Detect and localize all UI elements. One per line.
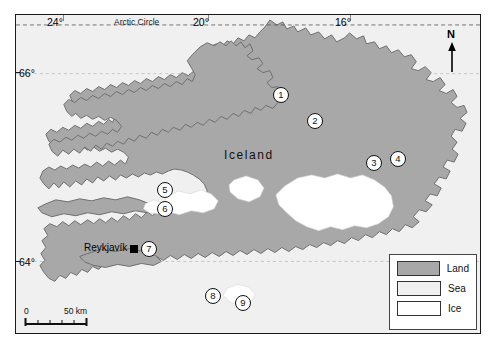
latitude-tick-66 [15, 72, 20, 73]
longitude-label-20: 20° [193, 16, 209, 28]
site-marker-8[interactable]: 8 [205, 288, 221, 304]
city-marker-icon [130, 245, 138, 253]
legend-label-ice: Ice [448, 303, 461, 314]
iceland-map: 24° 20° 16° Arctic Circle 66° 64° Icelan… [0, 0, 495, 350]
city-label-reykjavik: Reykjavík [84, 242, 127, 253]
map-legend: Land Sea Ice [389, 254, 477, 330]
site-marker-7[interactable]: 7 [141, 241, 157, 257]
legend-label-sea: Sea [448, 283, 466, 294]
latitude-label-66: 66° [19, 67, 35, 79]
legend-row-sea: Sea [397, 281, 469, 296]
scalebar-icon [24, 317, 90, 328]
site-marker-9[interactable]: 9 [235, 295, 251, 311]
arctic-circle-label: Arctic Circle [114, 17, 159, 27]
legend-swatch-land [397, 261, 440, 276]
site-marker-4[interactable]: 4 [390, 151, 406, 167]
site-marker-6[interactable]: 6 [157, 201, 173, 217]
site-marker-2[interactable]: 2 [307, 113, 323, 129]
legend-row-ice: Ice [397, 301, 469, 316]
longitude-label-16: 16° [335, 16, 351, 28]
site-marker-3[interactable]: 3 [366, 155, 382, 171]
north-arrow-icon [445, 42, 459, 72]
scalebar-start-label: 0 [24, 306, 29, 316]
north-letter-label: N [447, 28, 455, 40]
latitude-tick-64 [15, 261, 20, 262]
site-marker-1[interactable]: 1 [273, 87, 289, 103]
scalebar-end-label: 50 km [64, 306, 87, 316]
legend-swatch-ice [397, 301, 441, 316]
longitude-label-24: 24° [47, 16, 63, 28]
legend-row-land: Land [397, 261, 469, 276]
island-name-label: Iceland [224, 148, 274, 162]
latitude-label-64: 64° [19, 256, 35, 268]
longitude-tick-24 [63, 15, 64, 21]
legend-swatch-sea [397, 281, 441, 296]
site-marker-5[interactable]: 5 [157, 182, 173, 198]
legend-label-land: Land [447, 263, 469, 274]
